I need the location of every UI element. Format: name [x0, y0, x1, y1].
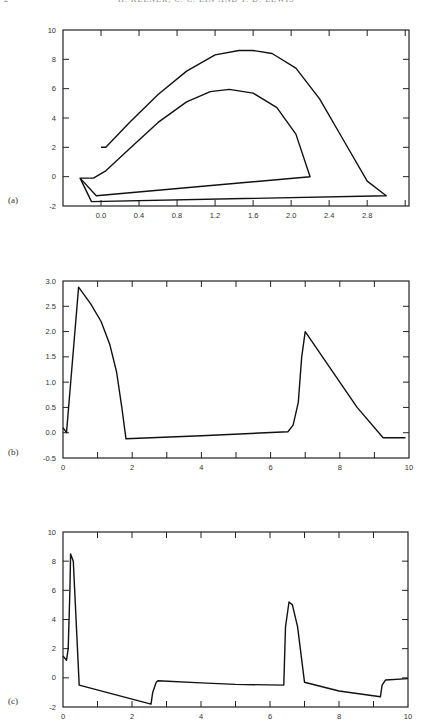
plot-frame [63, 532, 408, 707]
x-tick-label: 1.6 [248, 211, 258, 220]
x-tick-label: 10 [405, 463, 413, 472]
panel-label: (c) [8, 696, 18, 706]
data-line [63, 554, 408, 704]
y-tick-label: 2.5 [46, 302, 56, 311]
y-tick-label: -0.5 [43, 454, 56, 463]
y-tick-label: 0.0 [46, 428, 56, 437]
x-tick-label: 1.2 [210, 211, 220, 220]
y-tick-label: 2 [52, 644, 56, 653]
y-tick-label: -2 [49, 202, 56, 211]
panel-label: (a) [8, 195, 18, 205]
x-tick-label: 2 [130, 712, 134, 721]
y-tick-label: 4 [52, 114, 56, 123]
y-tick-label: 10 [48, 528, 56, 537]
x-tick-label: 2.4 [324, 211, 334, 220]
x-tick-label: 0 [61, 463, 65, 472]
data-line [63, 287, 406, 439]
y-tick-label: 4 [52, 615, 56, 624]
panel-label: (b) [8, 447, 19, 457]
x-tick-label: 0.8 [172, 211, 182, 220]
chart-panel-b: 0246810-0.50.00.51.01.52.02.53.0(b) [8, 277, 413, 473]
y-tick-label: -2 [49, 703, 56, 712]
plot-frame [63, 281, 409, 458]
y-tick-label: 1.0 [46, 378, 56, 387]
x-tick-label: 8 [338, 463, 342, 472]
x-tick-label: 0 [61, 712, 65, 721]
data-line [80, 51, 386, 202]
chart-panel-c: 0246810-20246810(c) [8, 528, 412, 722]
data-line [80, 89, 310, 195]
y-tick-label: 2.0 [46, 327, 56, 336]
y-tick-label: 0 [52, 172, 56, 181]
y-tick-label: 8 [52, 557, 56, 566]
y-tick-label: 8 [52, 55, 56, 64]
x-tick-label: 2.8 [362, 211, 372, 220]
x-tick-label: 4 [199, 463, 203, 472]
y-tick-label: 0.5 [46, 403, 56, 412]
plot-frame [63, 30, 409, 206]
x-tick-label: 2 [130, 463, 134, 472]
y-tick-label: 10 [48, 26, 56, 35]
x-tick-label: 10 [404, 712, 412, 721]
y-tick-label: 2 [52, 143, 56, 152]
y-tick-label: 3.0 [46, 277, 56, 286]
y-tick-label: 6 [52, 586, 56, 595]
x-tick-label: 0.4 [134, 211, 144, 220]
x-tick-label: 4 [199, 712, 203, 721]
figure-panels: 0.00.40.81.21.62.02.42.8-20246810(a) 024… [0, 0, 425, 725]
x-tick-label: 0.0 [96, 211, 106, 220]
x-tick-label: 2.0 [286, 211, 296, 220]
chart-panel-a: 0.00.40.81.21.62.02.42.8-20246810(a) [8, 26, 409, 221]
y-tick-label: 6 [52, 84, 56, 93]
y-tick-label: 0 [52, 673, 56, 682]
x-tick-label: 6 [268, 712, 272, 721]
y-tick-label: 1.5 [46, 352, 56, 361]
x-tick-label: 8 [337, 712, 341, 721]
x-tick-label: 6 [269, 463, 273, 472]
